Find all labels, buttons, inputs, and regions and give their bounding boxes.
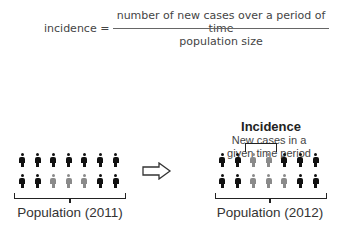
formula-numerator: number of new cases over a period of tim… [114,9,328,35]
person-icon [235,153,241,167]
person-icon [113,153,119,167]
person-icon [81,153,87,167]
formula-denominator: population size [114,35,328,48]
person-icon [313,153,319,167]
person-icon [19,153,25,167]
person-icon [50,153,56,167]
bracket-tick [269,199,271,203]
person-icon [66,153,72,167]
person-icon [297,174,303,188]
person-icon [113,174,119,188]
person-icon [266,153,272,167]
fraction-line [113,28,329,29]
population-2011-label: Population (2011) [0,205,140,220]
person-icon [281,174,287,188]
person-icon [66,174,72,188]
person-icon [297,153,303,167]
population-2012-label: Population (2012) [200,205,340,220]
incidence-title: Incidence [211,119,331,134]
person-icon [313,174,319,188]
person-icon [19,174,25,188]
person-icon [235,174,241,188]
person-icon [50,174,56,188]
person-icon [35,153,41,167]
person-icon [219,174,225,188]
right-arrow-outline-icon [142,162,172,180]
person-icon [281,153,287,167]
person-icon [97,174,103,188]
formula-lhs: incidence = [44,22,109,35]
person-icon [81,174,87,188]
population-2012-bracket [215,193,327,199]
person-icon [250,153,256,167]
person-icon [250,174,256,188]
person-icon [97,153,103,167]
new-cases-bracket [245,143,277,152]
person-icon [35,174,41,188]
person-icon [219,153,225,167]
person-icon [266,174,272,188]
bracket-tick [69,199,71,203]
